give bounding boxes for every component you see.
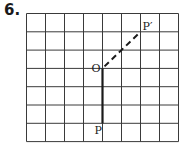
rotation-diagram: O P P′ <box>0 0 186 145</box>
point-o-label: O <box>92 62 101 75</box>
point-p-label: P <box>95 124 103 137</box>
segment-op-prime-dashed <box>105 32 141 67</box>
point-p-prime-label: P′ <box>143 20 153 33</box>
